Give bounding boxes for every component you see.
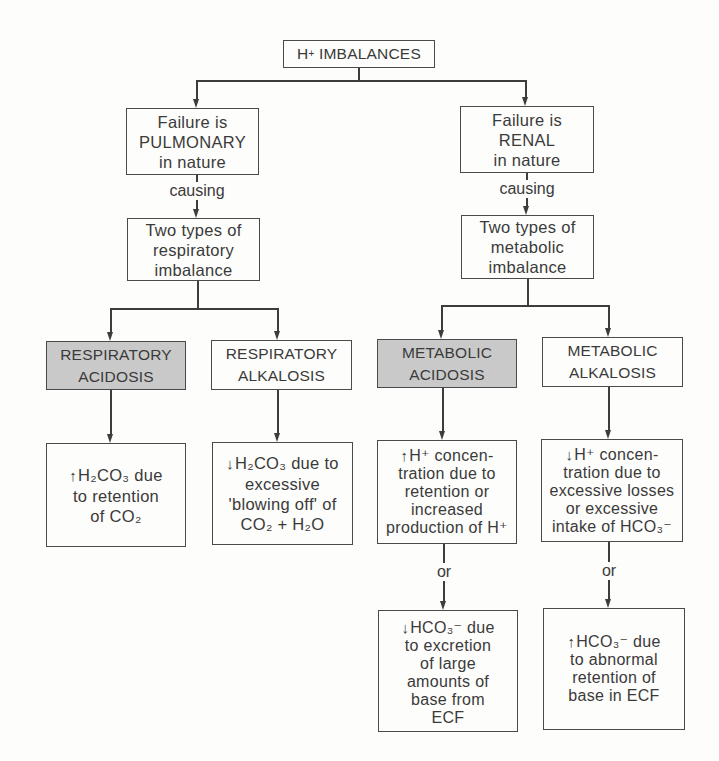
cause-line: H₂CO₃ due <box>78 466 163 484</box>
respiratory-acidosis-cause-box: ↑H₂CO₃ due to retention of CO₂ <box>46 443 186 547</box>
types-line: Two types of <box>145 220 241 240</box>
root-box-h-imbalances: H+ IMBALANCES <box>283 40 435 68</box>
down-arrow-icon: ↓ <box>401 619 409 636</box>
failure-line: RENAL <box>499 130 556 150</box>
cause-line: increased <box>411 501 483 519</box>
metabolic-alkalosis-box: METABOLIC ALKALOSIS <box>542 337 683 387</box>
types-line: imbalance <box>155 260 233 280</box>
cause-line: intake of HCO₃⁻ <box>552 518 672 536</box>
cause-line: base from <box>411 691 485 709</box>
title-line: RESPIRATORY <box>226 343 338 365</box>
cause-line: or excessive <box>566 500 659 518</box>
up-arrow-icon: ↑ <box>567 633 575 650</box>
cause-line: H⁺ concen- <box>409 447 493 464</box>
metabolic-acidosis-cause-box-1: ↑H⁺ concen- tration due to retention or … <box>377 440 517 544</box>
cause-line: to excretion <box>405 637 491 655</box>
title-line: ALKALOSIS <box>238 365 325 387</box>
cause-line: CO₂ + H₂O <box>241 514 325 534</box>
up-arrow-icon: ↑ <box>400 447 408 464</box>
failure-line: in nature <box>159 152 226 172</box>
cause-line: ECF <box>432 709 465 727</box>
or-label-metabolic-acidosis: or <box>430 563 458 581</box>
cause-line: excessive <box>245 474 320 494</box>
title-line: METABOLIC <box>567 340 657 362</box>
cause-line: to retention <box>73 486 159 506</box>
cause-line: amounts of <box>407 673 489 691</box>
failure-line: PULMONARY <box>139 132 246 152</box>
cause-line: production of H⁺ <box>386 519 508 537</box>
failure-line: Failure is <box>158 112 228 132</box>
or-label-metabolic-alkalosis: or <box>595 562 623 580</box>
cause-line: base in ECF <box>568 687 659 705</box>
cause-line: retention or <box>405 483 490 501</box>
cause-line: to abnormal <box>570 651 658 669</box>
cause-line: of CO₂ <box>90 506 141 526</box>
title-line: METABOLIC <box>402 342 492 364</box>
metabolic-types-box: Two types of metabolic imbalance <box>461 215 594 279</box>
down-arrow-icon: ↓ <box>226 455 234 472</box>
respiratory-acidosis-box: RESPIRATORY ACIDOSIS <box>46 341 186 390</box>
metabolic-alkalosis-cause-box-2: ↑HCO₃⁻ due to abnormal retention of base… <box>543 608 685 730</box>
causing-label-pulmonary: causing <box>166 182 228 200</box>
cause-line: 'blowing off' of <box>228 494 336 514</box>
title-line: ALKALOSIS <box>569 362 656 384</box>
root-title-rest: IMBALANCES <box>315 43 421 65</box>
failure-renal-box: Failure is RENAL in nature <box>460 106 594 173</box>
failure-line: in nature <box>494 150 561 170</box>
cause-line: HCO₃⁻ due <box>410 619 494 636</box>
respiratory-alkalosis-box: RESPIRATORY ALKALOSIS <box>211 340 352 390</box>
types-line: imbalance <box>489 257 567 277</box>
metabolic-acidosis-box: METABOLIC ACIDOSIS <box>377 339 517 388</box>
failure-pulmonary-box: Failure is PULMONARY in nature <box>126 108 259 175</box>
cause-line: retention of <box>572 669 656 687</box>
failure-line: Failure is <box>492 110 562 130</box>
cause-line: tration due to <box>563 464 661 482</box>
root-title-h: H <box>297 43 308 65</box>
title-line: ACIDOSIS <box>78 366 154 388</box>
title-line: ACIDOSIS <box>409 364 485 386</box>
cause-line: tration due to <box>398 465 496 483</box>
respiratory-alkalosis-cause-box: ↓H₂CO₃ due to excessive 'blowing off' of… <box>212 442 353 545</box>
title-line: RESPIRATORY <box>60 344 172 366</box>
down-arrow-icon: ↓ <box>565 446 573 463</box>
causing-label-renal: causing <box>496 180 558 198</box>
types-line: respiratory <box>153 240 234 260</box>
types-line: metabolic <box>491 237 564 257</box>
up-arrow-icon: ↑ <box>69 467 77 484</box>
respiratory-types-box: Two types of respiratory imbalance <box>127 218 260 281</box>
cause-line: excessive losses <box>550 482 675 500</box>
cause-line: of large <box>420 655 476 673</box>
metabolic-acidosis-cause-box-2: ↓HCO₃⁻ due to excretion of large amounts… <box>378 610 518 732</box>
metabolic-alkalosis-cause-box-1: ↓H⁺ concen- tration due to excessive los… <box>541 439 683 542</box>
cause-line: H⁺ concen- <box>574 446 658 463</box>
cause-line: HCO₃⁻ due <box>576 633 660 650</box>
cause-line: H₂CO₃ due to <box>235 454 339 472</box>
types-line: Two types of <box>479 217 575 237</box>
